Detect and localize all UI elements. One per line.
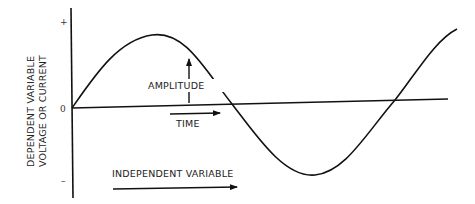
tick-plus: + [60, 17, 68, 27]
y-axis-label-line2: VOLTAGE OR CURRENT [37, 55, 48, 167]
amplitude-label: AMPLITUDE [148, 80, 204, 91]
time-arrow [170, 113, 220, 114]
tick-zero: 0 [60, 104, 66, 114]
y-axis [71, 8, 73, 198]
tick-minus: – [61, 176, 66, 186]
sine-wave-diagram: + 0 – DEPENDENT VARIABLE VOLTAGE OR CURR… [0, 0, 475, 204]
independent-variable-label: INDEPENDENT VARIABLE [112, 168, 233, 179]
independent-variable-arrow [113, 187, 237, 189]
time-label: TIME [175, 118, 200, 129]
sine-curve [72, 29, 457, 175]
y-axis-label-line1: DEPENDENT VARIABLE [25, 56, 36, 167]
